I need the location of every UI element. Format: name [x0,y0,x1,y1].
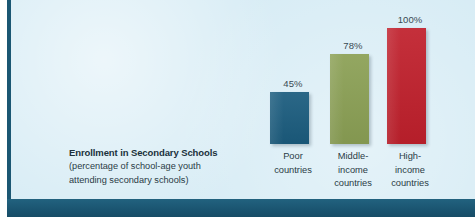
chart-title: Enrollment in Secondary Schools [69,146,259,159]
chart-subtitle-line-1: (percentage of school-age youth [69,159,259,173]
bar-texture [270,92,309,144]
bar-texture [387,28,426,144]
bar-label-line: Poor [268,150,318,164]
bar-value-middle-income-countries: 78% [330,40,376,51]
bar-label-line: income [328,164,378,178]
bar-poor-countries [270,92,309,144]
bar-label-line: countries [385,177,435,191]
bar-label-line: High- [385,150,435,164]
bar-high-income-countries [387,28,426,144]
bar-label-line: countries [328,177,378,191]
chart-panel: Enrollment in Secondary Schools (percent… [11,0,475,199]
bar-label-middle-income-countries: Middle-incomecountries [328,150,378,191]
bar-middle-income-countries [330,54,369,144]
bar-texture [330,54,369,144]
bar-label-line: income [385,164,435,178]
bar-label-poor-countries: Poorcountries [268,150,318,177]
bar-value-high-income-countries: 100% [387,14,433,25]
bar-label-high-income-countries: High-incomecountries [385,150,435,191]
chart-subtitle-line-2: attending secondary schools) [69,173,259,187]
bottom-accent-band [7,199,475,217]
plot-area: 45% Poorcountries 78% Middle-incomecount… [266,0,475,199]
chart-caption: Enrollment in Secondary Schools (percent… [69,146,259,187]
bar-label-line: countries [268,164,318,178]
chart-figure: Enrollment in Secondary Schools (percent… [0,0,475,217]
bar-label-line: Middle- [328,150,378,164]
bar-value-poor-countries: 45% [270,78,316,89]
